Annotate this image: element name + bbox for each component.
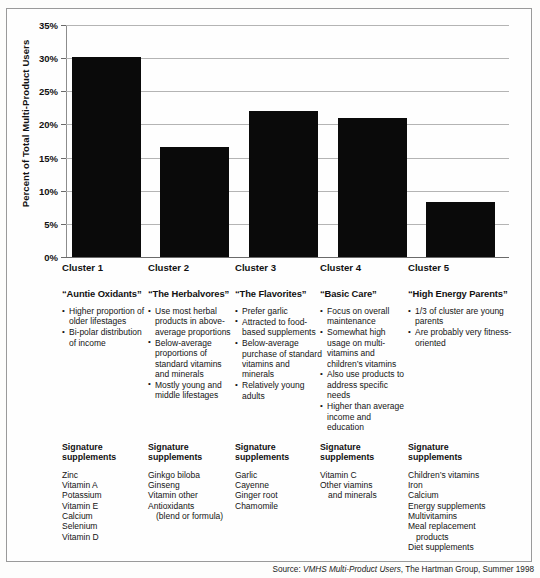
y-tick-label: 0%: [44, 252, 58, 263]
signature-list: ZincVitamin APotassiumVitamin ECalciumSe…: [62, 470, 148, 542]
signature-item: Ginseng: [148, 480, 236, 490]
cluster-column-3: “The Flavorites”Prefer garlicAttracted t…: [235, 288, 323, 402]
signature-title-2: Signature supplements: [148, 442, 226, 463]
cluster-bullet: 1/3 of cluster are young parents: [408, 306, 518, 327]
signature-item: Vitamin E: [62, 501, 148, 511]
cluster-bullet: Also use products to address specific ne…: [320, 369, 408, 400]
bar-4: [338, 118, 407, 257]
signature-item: Iron: [408, 480, 520, 490]
cluster-bullet-list: Prefer garlicAttracted to food-based sup…: [235, 306, 323, 401]
cluster-bullet: Somewhat high usage on multi-vitamins an…: [320, 327, 408, 369]
cluster-nickname-3: “The Flavorites”: [235, 288, 323, 299]
bar-2: [160, 147, 229, 257]
cluster-bullet: Higher than average income and education: [320, 401, 408, 432]
cluster-bullet: Relatively young adults: [235, 380, 323, 401]
signature-list: GarlicCayenneGinger rootChamomile: [235, 470, 323, 511]
signature-item: Vitamin C: [320, 470, 408, 480]
y-tick-label: 25%: [39, 86, 58, 97]
y-tick-mark: [61, 25, 66, 26]
signature-column-3: Signature supplementsGarlicCayenneGinger…: [235, 442, 323, 511]
cluster-bullet: Are probably very fitness-oriented: [408, 327, 518, 348]
cluster-nickname-1: “Auntie Oxidants”: [62, 288, 148, 299]
signature-list: Children’s vitaminsIronCalciumEnergy sup…: [408, 470, 520, 552]
cluster-bullet: Use most herbal products in above-averag…: [148, 306, 236, 337]
signature-item: Diet supplements: [408, 542, 520, 552]
bar-chart: Percent of Total Multi-Product Users 0%5…: [0, 0, 526, 280]
bar-3: [249, 111, 318, 257]
x-category-label-5: Cluster 5: [408, 262, 449, 273]
cluster-bullet: Mostly young and middle lifestages: [148, 380, 236, 401]
figure-page: Percent of Total Multi-Product Users 0%5…: [0, 0, 540, 578]
signature-item: Calcium: [62, 511, 148, 521]
cluster-bullet-list: Higher proportion of older lifestagesBi-…: [62, 306, 148, 348]
cluster-bullet: Below-average purchase of standard vitam…: [235, 338, 323, 380]
signature-title-1: Signature supplements: [62, 442, 140, 463]
signature-item: (blend or formula): [148, 511, 236, 521]
signature-item: Children’s vitamins: [408, 470, 520, 480]
signature-item: Potassium: [62, 490, 148, 500]
y-tick-label: 10%: [39, 185, 58, 196]
cluster-bullet: Bi-polar distribution of income: [62, 327, 148, 348]
cluster-bullet: Higher proportion of older lifestages: [62, 306, 148, 327]
y-tick-label: 35%: [39, 20, 58, 31]
plot-area: 0%5%10%15%20%25%30%35%: [66, 25, 509, 257]
cluster-column-2: “The Herbalvores”Use most herbal product…: [148, 288, 236, 401]
cluster-column-1: “Auntie Oxidants”Higher proportion of ol…: [62, 288, 148, 349]
signature-list: Ginkgo bilobaGinsengVitamin otherAntioxi…: [148, 470, 236, 521]
cluster-column-4: “Basic Care”Focus on overall maintenance…: [320, 288, 408, 433]
signature-item: Vitamin A: [62, 480, 148, 490]
source-note: Source: VMHS Multi-Product Users, The Ha…: [272, 565, 534, 574]
cluster-nickname-5: “High Energy Parents”: [408, 288, 518, 299]
signature-item: Meal replacement: [408, 521, 520, 531]
signature-title-5: Signature supplements: [408, 442, 486, 463]
signature-item: Ginger root: [235, 490, 323, 500]
signature-item: Chamomile: [235, 501, 323, 511]
y-tick-label: 15%: [39, 152, 58, 163]
signature-column-1: Signature supplementsZincVitamin APotass…: [62, 442, 148, 542]
signature-item: Other viamins: [320, 480, 408, 490]
cluster-nickname-2: “The Herbalvores”: [148, 288, 236, 299]
cluster-bullet-list: Focus on overall maintenanceSomewhat hig…: [320, 306, 408, 432]
signature-title-3: Signature supplements: [235, 442, 313, 463]
cluster-nickname-4: “Basic Care”: [320, 288, 408, 299]
source-prefix: Source:: [272, 565, 300, 574]
gridline: [66, 25, 509, 26]
signature-list: Vitamin COther viaminsand minerals: [320, 470, 408, 501]
cluster-bullet: Focus on overall maintenance: [320, 306, 408, 327]
y-tick-label: 20%: [39, 119, 58, 130]
signature-item: and minerals: [320, 490, 408, 500]
y-tick-mark: [61, 224, 66, 225]
y-tick-mark: [61, 191, 66, 192]
cluster-bullet: Below-average proportions of standard vi…: [148, 338, 236, 380]
y-tick-mark: [61, 124, 66, 125]
bar-1: [72, 57, 141, 257]
y-tick-mark: [61, 257, 66, 258]
cluster-bullet-list: Use most herbal products in above-averag…: [148, 306, 236, 401]
signature-item: Garlic: [235, 470, 323, 480]
source-rest: , The Hartman Group, Summer 1998: [401, 565, 534, 574]
signature-item: Calcium: [408, 490, 520, 500]
bar-5: [426, 202, 495, 257]
signature-item: Energy supplements: [408, 501, 520, 511]
signature-item: Ginkgo biloba: [148, 470, 236, 480]
x-category-label-3: Cluster 3: [235, 262, 276, 273]
x-category-label-2: Cluster 2: [148, 262, 189, 273]
signature-item: Cayenne: [235, 480, 323, 490]
y-tick-label: 30%: [39, 53, 58, 64]
x-category-label-1: Cluster 1: [62, 262, 103, 273]
y-tick-mark: [61, 58, 66, 59]
signature-item: Multivitamins: [408, 511, 520, 521]
signature-column-2: Signature supplementsGinkgo bilobaGinsen…: [148, 442, 236, 521]
y-tick-mark: [61, 91, 66, 92]
signature-column-4: Signature supplementsVitamin COther viam…: [320, 442, 408, 501]
signature-column-5: Signature supplementsChildren’s vitamins…: [408, 442, 520, 552]
signature-item: products: [408, 532, 520, 542]
y-tick-label: 5%: [44, 218, 58, 229]
signature-title-4: Signature supplements: [320, 442, 398, 463]
signature-item: Zinc: [62, 470, 148, 480]
signature-item: Vitamin other: [148, 490, 236, 500]
signature-item: Vitamin D: [62, 532, 148, 542]
x-category-label-4: Cluster 4: [320, 262, 361, 273]
signature-item: Selenium: [62, 521, 148, 531]
cluster-bullet-list: 1/3 of cluster are young parentsAre prob…: [408, 306, 518, 348]
